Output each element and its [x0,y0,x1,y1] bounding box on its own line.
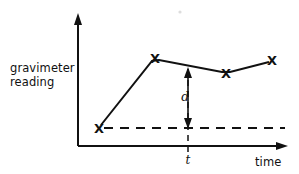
x-axis-label: time [255,155,281,169]
y-axis-arrow-icon [74,13,82,25]
drift-label: d [181,90,189,104]
y-axis-label-line1: gravimeter [10,61,75,75]
data-point-marker: X [221,66,231,81]
data-point-marker: X [267,53,277,68]
plot-canvas: X X X X gravimeter reading time d t [0,0,299,174]
time-tick-label: t [186,153,191,167]
x-axis-arrow-icon [276,142,288,150]
data-point-marker: X [94,121,104,136]
y-axis-label-line2: reading [10,75,54,89]
gravimeter-drift-figure: X X X X gravimeter reading time d t [0,0,299,174]
scan-artifact-speck [178,10,181,13]
drift-arrow-up-head-icon [184,67,192,78]
data-point-marker: X [150,51,160,66]
